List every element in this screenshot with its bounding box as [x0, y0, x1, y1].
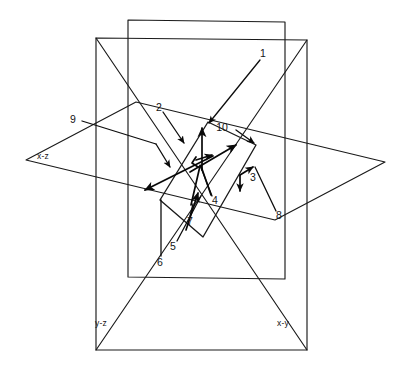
callout-label-7: 7	[187, 215, 193, 227]
xz-plane-group	[26, 102, 385, 220]
vector-arrow-upper-right	[190, 145, 236, 172]
vector-arrow-down-right	[201, 166, 211, 195]
callout-label-5: 5	[170, 240, 176, 252]
callout-label-10: 10	[216, 121, 228, 133]
xz-plane-outline	[26, 102, 385, 220]
inner-quadrilateral	[160, 122, 256, 237]
plane-label-xy: x-y	[277, 318, 289, 328]
callout-label-3: 3	[250, 171, 256, 183]
yz-plane-group	[128, 20, 285, 279]
inner-quad-group	[160, 122, 256, 237]
plane-label-xz: x-z	[37, 151, 49, 161]
coordinate-planes-diagram: 1 2 3 4 5 6 7 8 9 10 x-z y-z x-y	[0, 0, 407, 386]
leader-line-1	[209, 60, 260, 123]
leader-line-8	[255, 167, 276, 211]
leader-line-9	[82, 121, 156, 144]
callout-label-4: 4	[212, 194, 218, 206]
leader-line-2	[163, 112, 184, 143]
callout-label-6: 6	[157, 256, 163, 268]
leader-line-9-arrow	[156, 144, 170, 167]
callout-label-2: 2	[156, 101, 162, 113]
callout-label-9: 9	[70, 113, 76, 125]
callout-label-1: 1	[260, 47, 266, 59]
figure-canvas: 1 2 3 4 5 6 7 8 9 10 x-z y-z x-y	[0, 0, 407, 386]
callout-label-8: 8	[276, 209, 282, 221]
plane-label-yz: y-z	[95, 318, 107, 328]
yz-plane-outline	[128, 20, 285, 279]
